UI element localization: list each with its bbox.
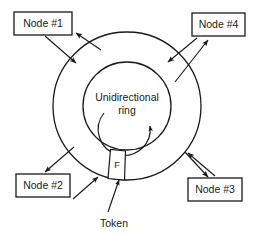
node-2-to-ring-arrow [73, 177, 98, 199]
node-1-group: Node #1 [14, 12, 101, 63]
node-3-to-ring-arrow [188, 153, 215, 176]
node-2-label: Node #2 [23, 179, 63, 191]
token-letter-label: F [114, 160, 120, 170]
diagram-canvas: Unidirectional ring F Token Node #1 Node… [0, 0, 255, 234]
node-4-to-ring-arrow [168, 38, 197, 62]
ring-to-node-1-arrow [76, 33, 101, 50]
ring-center-label: Unidirectional ring [95, 91, 159, 116]
ring-to-node-2-arrow [45, 147, 74, 172]
node-3-group: Node #3 [185, 152, 242, 201]
center-label-line2: ring [118, 104, 136, 116]
node-4-label: Node #4 [199, 18, 239, 30]
node-1-label: Node #1 [23, 17, 63, 29]
node-1-to-ring-arrow [45, 36, 76, 63]
node-2-group: Node #2 [16, 147, 98, 199]
ring-to-node-3-arrow [185, 152, 208, 177]
center-label-line1: Unidirectional [95, 91, 159, 103]
token-graphic: F [108, 150, 126, 181]
rotation-direction-arrow [98, 113, 150, 155]
token-callout: Token [100, 180, 128, 229]
node-4-group: Node #4 [168, 13, 245, 82]
ring-to-node-4-arrow [175, 40, 208, 82]
ring-network-diagram: Unidirectional ring F Token Node #1 Node… [0, 0, 255, 234]
node-3-label: Node #3 [195, 183, 235, 195]
token-leader-line [108, 180, 119, 212]
token-caption-label: Token [100, 217, 128, 229]
